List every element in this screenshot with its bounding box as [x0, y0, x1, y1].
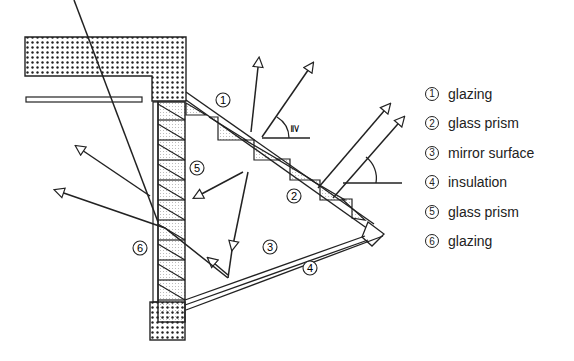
legend-item: 6glazing — [425, 227, 534, 257]
ceiling-slab — [25, 37, 186, 101]
mirror-insulation — [185, 236, 383, 310]
legend-number: 1 — [425, 87, 439, 101]
legend-item: 1glazing — [425, 79, 534, 109]
legend-number: 6 — [425, 234, 439, 248]
legend-label: glazing — [448, 233, 492, 249]
stepped-prisms — [186, 103, 365, 220]
svg-text:6: 6 — [137, 242, 143, 254]
legend-label: glass prism — [448, 204, 519, 220]
legend-number: 5 — [425, 205, 439, 219]
legend-item: 4insulation — [425, 168, 534, 198]
ceiling-panel — [26, 97, 142, 102]
svg-text:4: 4 — [307, 262, 313, 274]
angle-symbol: ≧ — [290, 124, 302, 133]
legend-item: 5glass prism — [425, 197, 534, 227]
legend-number: 4 — [425, 175, 439, 189]
svg-text:3: 3 — [267, 241, 273, 253]
legend-label: glazing — [448, 86, 492, 102]
inner-glazing — [153, 102, 158, 302]
floor-block — [150, 302, 185, 340]
legend-label: mirror surface — [448, 145, 534, 161]
svg-text:5: 5 — [194, 162, 200, 174]
legend-item: 3mirror surface — [425, 138, 534, 168]
legend-item: 2glass prism — [425, 109, 534, 139]
prism-column — [158, 102, 185, 322]
legend-number: 3 — [425, 146, 439, 160]
legend-label: insulation — [448, 174, 507, 190]
svg-text:1: 1 — [220, 94, 226, 106]
legend-label: glass prism — [448, 115, 519, 131]
svg-text:2: 2 — [291, 190, 297, 202]
legend: 1glazing 2glass prism 3mirror surface 4i… — [425, 79, 534, 256]
angle-markers — [262, 117, 402, 183]
legend-number: 2 — [425, 116, 439, 130]
